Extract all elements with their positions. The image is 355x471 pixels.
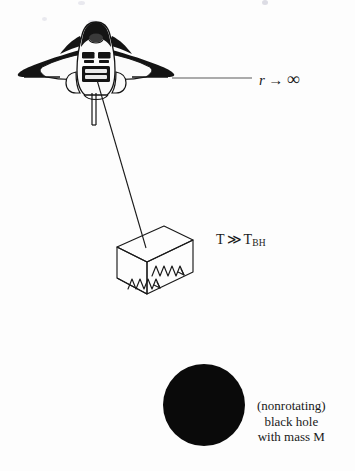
tether-line — [97, 80, 146, 248]
label-black-hole-caption: (nonrotating) black hole with mass M — [257, 398, 326, 445]
caption-line-3: with mass M — [257, 429, 326, 445]
much-greater-than-glyph: ≫ — [225, 232, 244, 247]
radiation-waves — [128, 266, 184, 289]
reference-temperature-subscript: BH — [252, 238, 266, 248]
arrow-glyph: → — [265, 72, 287, 88]
reference-temperature-symbol: T — [244, 232, 253, 247]
physics-figure: r→∞ T≫TBH (nonrotating) black hole with … — [0, 0, 355, 471]
caption-line-2: black hole — [257, 414, 326, 430]
space-shuttle-icon — [18, 22, 175, 125]
infinity-glyph: ∞ — [287, 69, 300, 89]
radiation-box — [117, 226, 193, 294]
black-hole-disc — [163, 364, 245, 446]
temperature-symbol: T — [216, 232, 225, 247]
label-r-to-infinity: r→∞ — [259, 69, 300, 90]
label-temperature-relation: T≫TBH — [216, 231, 266, 248]
caption-line-1: (nonrotating) — [257, 398, 326, 414]
